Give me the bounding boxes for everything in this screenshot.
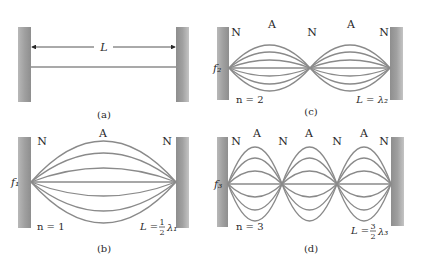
length-label: L <box>99 41 107 54</box>
standing-wave-n3 <box>228 147 391 221</box>
node-label: N <box>162 135 172 148</box>
right-wall <box>176 27 189 102</box>
panel-b: N A N f₁ n = 1 L = 1 2 λ₁ (b) <box>10 127 189 254</box>
standing-waves-diagram: L (a) N A N f₁ n = 1 L = 1 2 λ₁ (b) <box>0 0 421 258</box>
antinode-label: A <box>98 127 108 140</box>
mode-number: n = 1 <box>37 221 65 232</box>
antinode-label: A <box>304 127 314 140</box>
harmonic-label: f₂ <box>212 62 221 75</box>
harmonic-label: f₁ <box>10 176 19 189</box>
antinode-label: A <box>359 127 369 140</box>
left-wall <box>18 27 31 102</box>
node-label: N <box>307 26 317 39</box>
harmonic-label: f₃ <box>213 178 222 191</box>
svg-text:L =: L = <box>350 225 369 236</box>
antinode-label: A <box>252 127 262 140</box>
standing-wave-n2 <box>229 45 390 91</box>
node-label: N <box>231 26 241 39</box>
right-wall <box>176 137 189 228</box>
right-wall <box>391 137 404 226</box>
svg-text:2: 2 <box>159 228 164 237</box>
svg-text:λ₁: λ₁ <box>166 222 177 233</box>
left-wall <box>18 137 31 228</box>
antinode-label: A <box>346 18 356 31</box>
svg-text:3: 3 <box>370 222 375 231</box>
svg-text:L =: L = <box>139 221 158 232</box>
caption-a: (a) <box>97 109 111 120</box>
mode-number: n = 3 <box>236 221 264 232</box>
svg-text:2: 2 <box>370 232 375 241</box>
length-relation: L = 1 2 λ₁ <box>139 218 177 237</box>
node-label: N <box>332 135 342 148</box>
antinode-label: A <box>267 18 277 31</box>
length-relation: L = 3 2 λ₃ <box>350 222 388 241</box>
node-label: N <box>379 135 389 148</box>
panel-c: N A N A N f₂ n = 2 L = λ₂ (c) <box>212 18 403 117</box>
node-label: N <box>379 26 389 39</box>
svg-text:λ₃: λ₃ <box>377 226 388 237</box>
node-label: N <box>278 135 288 148</box>
node-label: N <box>231 135 241 148</box>
mode-number: n = 2 <box>236 94 264 105</box>
panel-d: N A N A N A N f₃ n = 3 L = 3 2 λ₃ (d) <box>213 127 404 254</box>
right-wall <box>390 27 403 100</box>
caption-b: (b) <box>97 243 111 254</box>
standing-wave-n1 <box>31 141 176 223</box>
caption-d: (d) <box>304 243 318 254</box>
length-relation: L = λ₂ <box>355 94 388 105</box>
node-label: N <box>37 135 47 148</box>
panel-a: L (a) <box>18 27 189 120</box>
svg-text:1: 1 <box>159 218 164 227</box>
caption-c: (c) <box>304 106 318 117</box>
